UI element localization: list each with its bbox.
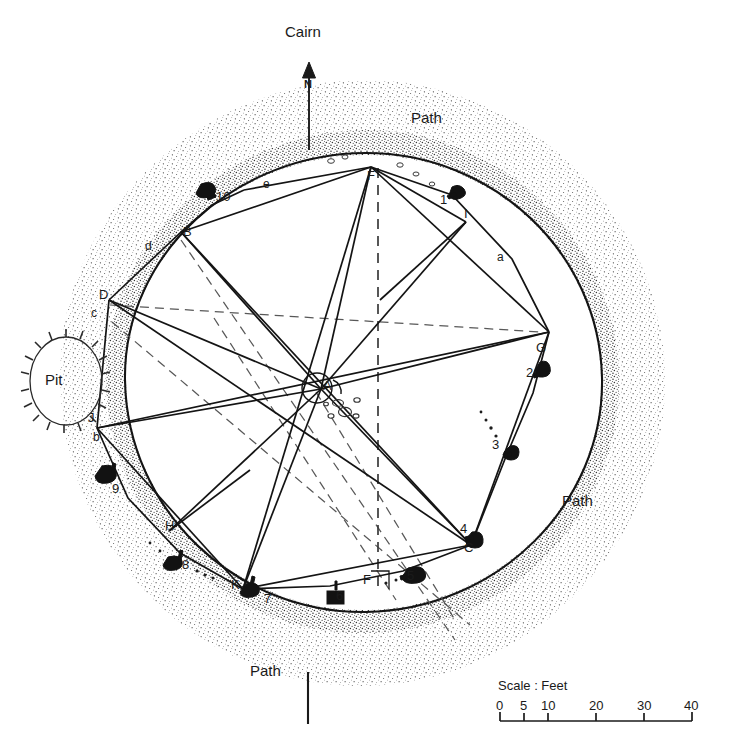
stone-label-8: 8 xyxy=(182,558,189,571)
vertex-label-D: D xyxy=(99,288,108,301)
stone-circle-site-plan xyxy=(0,0,732,749)
centre-pebble-scatter xyxy=(324,398,361,418)
scale-tick-label-20: 20 xyxy=(589,699,603,712)
arc-label-b: b xyxy=(93,431,100,443)
vertex-label-J: J xyxy=(88,411,95,424)
stone-label-5: 5 xyxy=(407,569,414,582)
vertex-label-B: B xyxy=(183,225,192,238)
stone-label-3: 3 xyxy=(492,438,499,451)
stone-label-2: 2 xyxy=(526,366,533,379)
scale-bar-graphic xyxy=(500,712,692,721)
stone-label-1: 1 xyxy=(440,193,447,206)
scale-tick-label-5: 5 xyxy=(520,699,527,712)
pit-label: Pit xyxy=(45,372,63,387)
arc-label-e: e xyxy=(263,178,270,190)
meridian-dashed-line xyxy=(371,168,389,592)
stone-label-4: 4 xyxy=(460,522,467,535)
scale-tick-label-0: 0 xyxy=(496,699,503,712)
arc-label-a: a xyxy=(497,251,504,263)
stone-label-6: 6 xyxy=(336,589,343,602)
cairn-label: Cairn xyxy=(285,24,321,39)
vertex-label-F-bottom: F xyxy=(363,573,371,586)
vertex-label-F-top: F xyxy=(367,169,375,182)
stone-label-10: 10 xyxy=(216,190,230,203)
arc-label-c: c xyxy=(91,307,97,319)
path-label-right: Path xyxy=(562,493,593,508)
vertex-label-A: A xyxy=(323,379,332,392)
stone-label-7: 7 xyxy=(264,592,271,605)
vertex-label-C: C xyxy=(464,541,473,554)
scale-tick-label-10: 10 xyxy=(541,699,555,712)
path-label-bottom: Path xyxy=(250,663,281,678)
north-label: N xyxy=(304,79,312,90)
arc-label-d: d xyxy=(145,240,152,252)
vertex-label-K: K xyxy=(231,578,240,591)
stone-label-9: 9 xyxy=(112,482,119,495)
scale-caption: Scale : Feet xyxy=(498,679,567,692)
vertex-label-H: H xyxy=(165,519,174,532)
vertex-label-G: G xyxy=(536,341,546,354)
scale-tick-label-30: 30 xyxy=(637,699,651,712)
path-label-top: Path xyxy=(411,110,442,125)
vertex-label-I: I xyxy=(464,207,468,220)
scale-tick-label-40: 40 xyxy=(684,699,698,712)
